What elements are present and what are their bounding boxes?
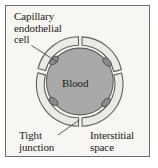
label-capillary-endothelial-cell: Capillary endothelial cell bbox=[14, 11, 62, 46]
label-tight-junction: Tight junction bbox=[19, 130, 54, 153]
label-interstitial-space: Interstitial space bbox=[90, 130, 134, 153]
capillary-diagram-figure: Capillary endothelial cell Blood Tight j… bbox=[0, 0, 158, 168]
label-blood: Blood bbox=[62, 78, 88, 90]
